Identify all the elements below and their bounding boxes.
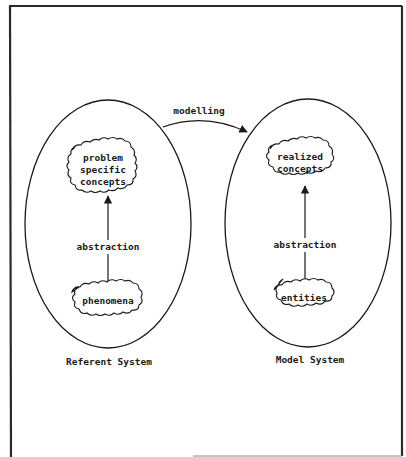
lower-concept-label: phenomena bbox=[82, 295, 134, 306]
upper-concept-line-1: realized bbox=[277, 151, 323, 162]
outer-frame bbox=[9, 6, 402, 457]
model-system: realized concepts abstraction entities M… bbox=[225, 99, 391, 365]
modelling-label: modelling bbox=[173, 105, 225, 116]
referent-system: problem specific concepts abstraction ph… bbox=[25, 100, 191, 367]
abstraction-label: abstraction bbox=[274, 239, 337, 250]
referent-model-diagram: modelling problem specific concepts abst… bbox=[0, 0, 406, 457]
upper-concept-line-1: problem bbox=[83, 152, 123, 163]
upper-concept-line-3: concepts bbox=[80, 176, 126, 187]
frame-left-edge bbox=[10, 6, 11, 457]
modelling-arrow bbox=[163, 121, 247, 132]
model-system-title: Model System bbox=[276, 354, 345, 365]
referent-system-title: Referent System bbox=[66, 356, 152, 367]
lower-concept-label: entities bbox=[281, 292, 327, 303]
upper-concept-line-2: specific bbox=[80, 164, 126, 175]
upper-concept-line-2: concepts bbox=[277, 163, 323, 174]
model-system-ellipse bbox=[225, 99, 391, 347]
abstraction-label: abstraction bbox=[77, 241, 140, 252]
modelling-relation: modelling bbox=[163, 105, 247, 133]
